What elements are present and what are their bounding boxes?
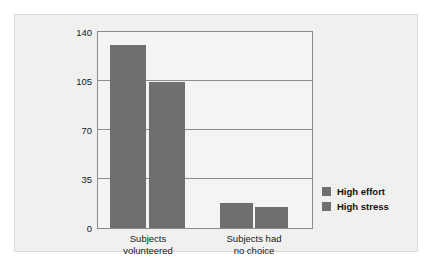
bar-volunteered-high-stress[interactable] [149,82,185,228]
bar-no-choice-high-effort[interactable] [220,203,253,228]
x-axis-label-subjects-no-choice: Subjects had no choice [227,233,282,258]
y-tick-label-0: 0 [87,223,92,234]
bar-no-choice-high-stress[interactable] [255,207,288,228]
plot-area: 140 105 70 35 0 Subjects volunteered Sub… [97,31,313,229]
x-axis-label-line-2: volunteered [123,245,173,257]
x-axis-label-line-2: no choice [227,245,282,257]
legend-swatch-icon [322,187,331,196]
y-tick-label-140: 140 [76,27,92,38]
bar-volunteered-high-effort[interactable] [110,45,146,228]
x-axis-label-line-1: Subjects had [227,233,282,245]
legend-item-high-effort[interactable]: High effort [322,186,389,197]
y-tick-label-35: 35 [81,174,92,185]
x-axis-label-line-1: Subjects [123,233,173,245]
chart-legend: High effort High stress [322,186,389,212]
chart-figure: Change in willingness to approach snake … [14,14,418,252]
legend-swatch-icon [322,202,331,211]
y-tick-label-70: 70 [81,125,92,136]
legend-item-high-stress[interactable]: High stress [322,201,389,212]
x-axis-label-subjects-volunteered: Subjects volunteered [123,233,173,258]
legend-label-high-stress: High stress [337,201,389,212]
legend-label-high-effort: High effort [337,186,385,197]
y-tick-label-105: 105 [76,76,92,87]
